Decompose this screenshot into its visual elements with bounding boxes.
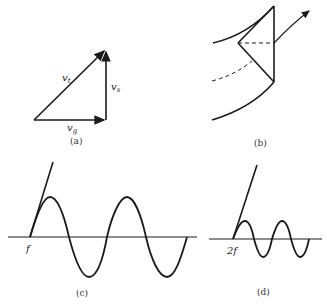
panel-d-waveform-2f: 2f (d) bbox=[209, 165, 322, 297]
panel-a-velocity-triangle: vt vs vg (a) bbox=[34, 51, 121, 146]
label-2f: 2f bbox=[226, 245, 239, 256]
label-f: f bbox=[25, 243, 32, 254]
tangent-line-d bbox=[233, 165, 257, 239]
panel-c-waveform-f: f (c) bbox=[8, 162, 197, 298]
caption-a: (a) bbox=[70, 136, 82, 146]
vector-vt bbox=[34, 51, 104, 120]
upper-diagonal bbox=[238, 6, 274, 43]
caption-b: (b) bbox=[254, 138, 267, 148]
physics-diagram: vt vs vg (a) (b) f (c) 2f (d) bbox=[0, 0, 327, 306]
panel-b-blade-geometry: (b) bbox=[212, 6, 309, 148]
lower-arc bbox=[212, 82, 274, 120]
label-vt: vt bbox=[62, 72, 71, 85]
label-vg: vg bbox=[67, 122, 78, 135]
label-vs: vs bbox=[111, 81, 121, 94]
flow-arrow bbox=[274, 11, 309, 43]
caption-c: (c) bbox=[76, 288, 88, 298]
caption-d: (d) bbox=[257, 287, 270, 297]
lower-diagonal bbox=[238, 43, 274, 82]
dashed-arc bbox=[212, 61, 252, 81]
